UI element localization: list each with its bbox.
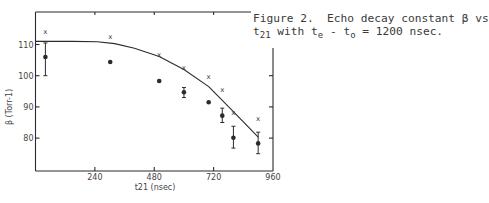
data-dot xyxy=(206,100,211,105)
data-dot xyxy=(43,55,48,60)
theory-curve xyxy=(36,41,259,137)
figure-caption: Figure 2. Echo decay constant β vs t21 w… xyxy=(252,12,489,38)
cross-marker: x xyxy=(220,86,224,94)
x-axis-label: t21 (nsec) xyxy=(135,183,176,192)
data-dot xyxy=(256,141,261,146)
cross-marker: x xyxy=(256,115,260,123)
y-tick-label: 80 xyxy=(23,134,33,143)
data-dot xyxy=(220,113,225,118)
caption-line-1: Figure 2. Echo decay constant β vs xyxy=(253,12,489,25)
theory-curve-path xyxy=(36,41,259,137)
cross-marker: x xyxy=(182,64,186,72)
cross-marker: x xyxy=(108,33,112,41)
data-dot xyxy=(108,60,113,65)
data-dot xyxy=(231,135,236,140)
x-tick-label: 240 xyxy=(87,173,102,182)
y-tick-label: 100 xyxy=(18,72,33,81)
cross-marker: x xyxy=(207,73,211,81)
x-tick-label: 480 xyxy=(147,173,162,182)
plot-frame xyxy=(36,12,274,171)
data-dot xyxy=(182,90,187,95)
cross-marker: x xyxy=(157,51,161,59)
caption-line-2: t21 with te - to = 1200 nsec. xyxy=(253,25,443,38)
data-dot xyxy=(157,79,162,84)
y-tick-label: 90 xyxy=(23,103,33,112)
measured-points xyxy=(43,43,260,154)
axis-ticks: 2404807209608090100110 xyxy=(18,12,280,182)
y-axis-label: β (Torr-1) xyxy=(5,89,14,125)
x-tick-label: 720 xyxy=(206,173,221,182)
cross-marker: x xyxy=(43,28,47,36)
y-tick-label: 110 xyxy=(18,41,33,50)
x-tick-label: 960 xyxy=(265,173,280,182)
cross-marker: x xyxy=(231,109,235,117)
